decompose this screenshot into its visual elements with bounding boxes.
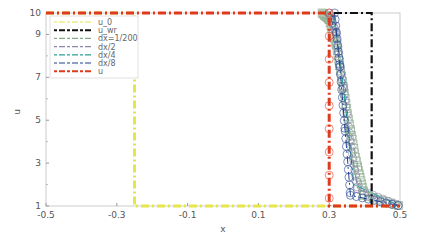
y-tick-label: 10 <box>30 8 42 18</box>
legend: u_0u_wrdx=1/200dx/2dx/4dx/8u <box>50 16 138 78</box>
y-tick-label: 7 <box>35 72 41 82</box>
x-tick-label: 0.5 <box>393 210 407 220</box>
x-tick-label: 0.3 <box>322 210 336 220</box>
y-tick-label: 1 <box>35 201 41 211</box>
y-tick-label: 5 <box>35 115 41 125</box>
y-tick-label: 3 <box>35 158 41 168</box>
x-axis-label: x <box>220 224 226 234</box>
x-tick-label: 0.1 <box>251 210 265 220</box>
x-tick-label: -0.1 <box>179 210 197 220</box>
y-tick-label: 9 <box>35 29 41 39</box>
x-tick-label: -0.3 <box>108 210 126 220</box>
chart: -0.5-0.3-0.10.10.30.51357910xu u_0u_wrdx… <box>0 0 424 239</box>
legend-entry: u <box>98 67 103 76</box>
x-tick-label: -0.5 <box>37 210 55 220</box>
y-axis-label: u <box>12 109 22 115</box>
